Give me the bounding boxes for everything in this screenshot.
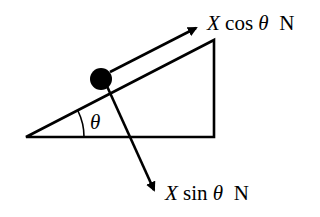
inclined-plane-triangle — [26, 40, 214, 137]
angle-symbol: θ — [90, 110, 100, 134]
angle-arc — [78, 111, 84, 137]
force-unit: N — [279, 11, 294, 35]
force-label-perpendicular: X sin θ N — [165, 183, 249, 204]
force-func: sin — [183, 181, 208, 205]
angle-label: θ — [90, 112, 100, 133]
force-var: X — [207, 11, 220, 35]
particle — [90, 68, 112, 90]
force-angle: θ — [258, 11, 268, 35]
force-unit: N — [234, 181, 249, 205]
force-angle: θ — [213, 181, 223, 205]
force-arrow-parallel — [110, 28, 196, 72]
force-func: cos — [225, 11, 253, 35]
force-var: X — [165, 181, 178, 205]
force-label-parallel: X cos θ N — [207, 13, 294, 34]
